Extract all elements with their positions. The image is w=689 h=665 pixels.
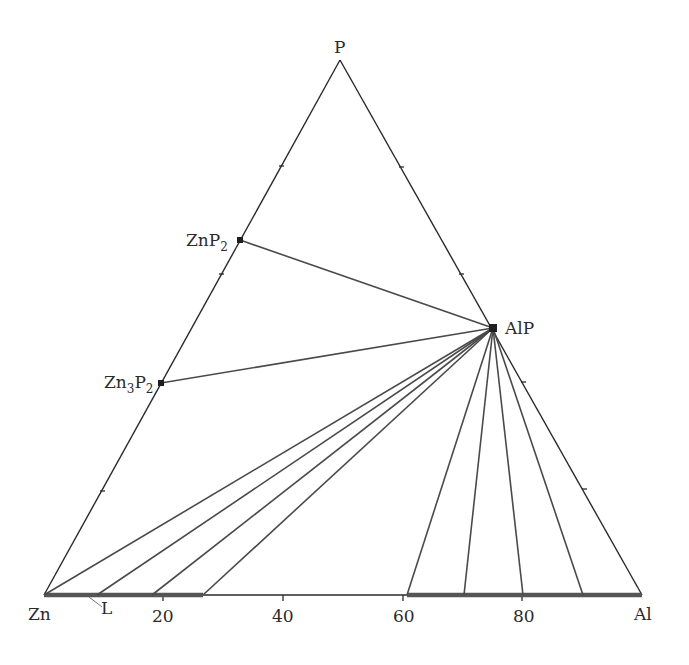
point-alp bbox=[489, 324, 497, 332]
tie-alp-base-70 bbox=[464, 328, 493, 595]
tie-znp2-alp bbox=[240, 240, 493, 328]
tie-alp-base-18 bbox=[152, 328, 493, 595]
tie-alp-base-0 bbox=[44, 328, 493, 595]
vertex-label-al: Al bbox=[633, 604, 652, 624]
ternary-diagram: P Zn Al 20 40 60 80 L ZnP2 Zn3P2 AlP bbox=[0, 0, 689, 665]
edge-p-zn bbox=[44, 60, 340, 595]
tie-lines bbox=[44, 240, 583, 595]
tie-alp-base-80 bbox=[493, 328, 523, 595]
vertex-label-p: P bbox=[334, 37, 345, 57]
base-tick-label-20: 20 bbox=[152, 606, 174, 626]
vertex-label-zn: Zn bbox=[28, 604, 51, 624]
compound-label-zn3p2: Zn3P2 bbox=[104, 372, 154, 396]
edge-ticks bbox=[100, 166, 587, 601]
compound-label-znp2: ZnP2 bbox=[186, 230, 228, 254]
liquid-label: L bbox=[101, 598, 112, 618]
triangle-outline bbox=[44, 60, 642, 595]
tie-alp-base-90 bbox=[493, 328, 583, 595]
base-tick-label-60: 60 bbox=[393, 606, 415, 626]
base-tick-label-80: 80 bbox=[513, 606, 535, 626]
base-tick-label-40: 40 bbox=[272, 606, 294, 626]
compound-label-alp: AlP bbox=[504, 318, 534, 338]
point-znp2 bbox=[237, 237, 243, 243]
tie-alp-base-9 bbox=[97, 328, 493, 595]
point-zn3p2 bbox=[158, 380, 164, 386]
